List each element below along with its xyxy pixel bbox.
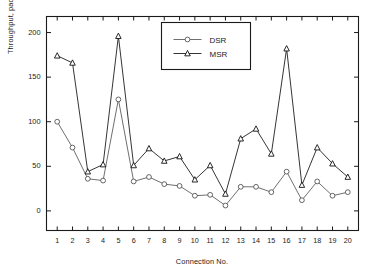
x-tick-label: 2 xyxy=(65,236,81,245)
chart-legend: DSRMSR xyxy=(162,23,251,70)
x-tick-label: 14 xyxy=(248,236,264,245)
x-tick-label: 11 xyxy=(202,236,218,245)
x-tick-label: 10 xyxy=(187,236,203,245)
x-tick-label: 9 xyxy=(172,236,188,245)
x-tick-label: 12 xyxy=(217,236,233,245)
x-tick-label: 5 xyxy=(110,236,126,245)
x-tick-label: 8 xyxy=(156,236,172,245)
y-tick-label: 50 xyxy=(15,161,41,170)
x-tick-label: 7 xyxy=(141,236,157,245)
x-tick-label: 4 xyxy=(95,236,111,245)
throughput-line-chart: Throughput, packets/second Connection No… xyxy=(0,0,376,276)
x-tick-label: 17 xyxy=(294,236,310,245)
x-tick-label: 13 xyxy=(233,236,249,245)
x-tick-label: 16 xyxy=(279,236,295,245)
x-tick-label: 19 xyxy=(325,236,341,245)
x-tick-label: 3 xyxy=(80,236,96,245)
x-tick-label: 18 xyxy=(309,236,325,245)
legend-label-dsr: DSR xyxy=(210,36,227,45)
x-tick-label: 20 xyxy=(340,236,356,245)
series-dsr xyxy=(55,97,350,208)
x-axis-title: Connection No. xyxy=(46,257,358,266)
x-tick-label: 15 xyxy=(263,236,279,245)
y-tick-label: 200 xyxy=(15,28,41,37)
y-tick-label: 0 xyxy=(15,206,41,215)
y-tick-label: 100 xyxy=(15,117,41,126)
x-tick-label: 6 xyxy=(126,236,142,245)
y-tick-label: 150 xyxy=(15,72,41,81)
legend-label-msr: MSR xyxy=(210,50,228,59)
x-tick-label: 1 xyxy=(49,236,65,245)
